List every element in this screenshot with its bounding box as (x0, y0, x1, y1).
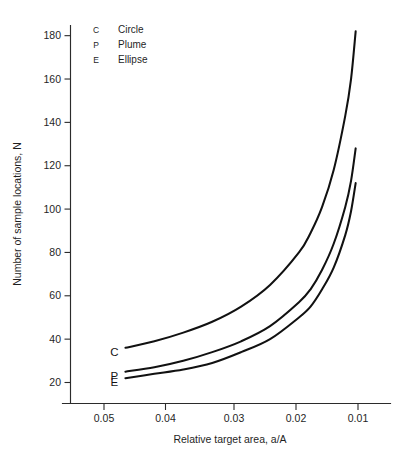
legend-key-e: E (93, 55, 99, 65)
y-tick-label: 180 (43, 29, 61, 41)
legend-label-circle: Circle (118, 24, 144, 35)
x-axis-title: Relative target area, a/A (173, 433, 286, 445)
y-tick-label: 160 (43, 73, 61, 85)
x-tick-label: 0.02 (286, 412, 307, 424)
curve-label-e: E (111, 376, 119, 388)
y-tick-label: 40 (49, 333, 61, 345)
x-tick-label: 0.05 (94, 412, 115, 424)
x-tick-label: 0.04 (155, 412, 176, 424)
y-tick-label: 140 (43, 116, 61, 128)
y-axis-title: Number of sample locations, N (11, 142, 23, 286)
line-chart: 20406080100120140160180 0.050.040.030.02… (0, 0, 417, 465)
y-tick-label: 120 (43, 159, 61, 171)
chart-background (0, 0, 417, 465)
legend-key-c: C (93, 25, 99, 35)
x-tick-label: 0.01 (348, 412, 369, 424)
y-tick-label: 100 (43, 203, 61, 215)
y-tick-label: 80 (49, 246, 61, 258)
legend-label-plume: Plume (118, 39, 147, 50)
y-tick-label: 60 (49, 289, 61, 301)
legend-key-p: P (93, 40, 99, 50)
legend-label-ellipse: Ellipse (118, 54, 148, 65)
chart-figure: 20406080100120140160180 0.050.040.030.02… (0, 0, 417, 465)
y-tick-label: 20 (49, 376, 61, 388)
curve-label-c: C (110, 346, 118, 358)
x-tick-label: 0.03 (224, 412, 245, 424)
